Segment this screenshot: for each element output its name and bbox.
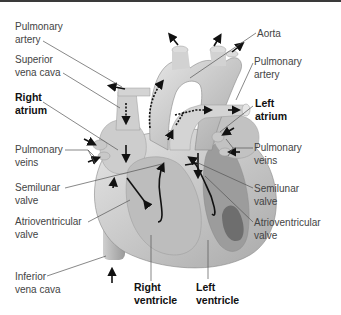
label-semilunar-valve-left: Semilunar valve bbox=[15, 181, 60, 207]
label-semilunar-valve-right: Semilunar valve bbox=[254, 182, 299, 208]
label-left-atrium: Left atrium bbox=[255, 97, 287, 123]
label-atrioventricular-valve-left: Atrioventricular valve bbox=[15, 215, 82, 241]
label-superior-vena-cava: Superior vena cava bbox=[15, 53, 61, 79]
label-aorta: Aorta bbox=[257, 27, 281, 40]
label-atrioventricular-valve-right: Atrioventricular valve bbox=[254, 216, 321, 242]
label-pulmonary-artery-right: Pulmonary artery bbox=[254, 55, 302, 81]
label-left-ventricle: Left ventricle bbox=[196, 281, 239, 307]
label-inferior-vena-cava: Inferior vena cava bbox=[15, 270, 61, 296]
label-right-ventricle: Right ventricle bbox=[134, 281, 177, 307]
label-right-atrium: Right atrium bbox=[15, 91, 47, 117]
label-pulmonary-veins-right: Pulmonary veins bbox=[254, 141, 302, 167]
label-pulmonary-veins-left: Pulmonary veins bbox=[15, 143, 63, 169]
label-pulmonary-artery-left: Pulmonary artery bbox=[15, 20, 63, 46]
